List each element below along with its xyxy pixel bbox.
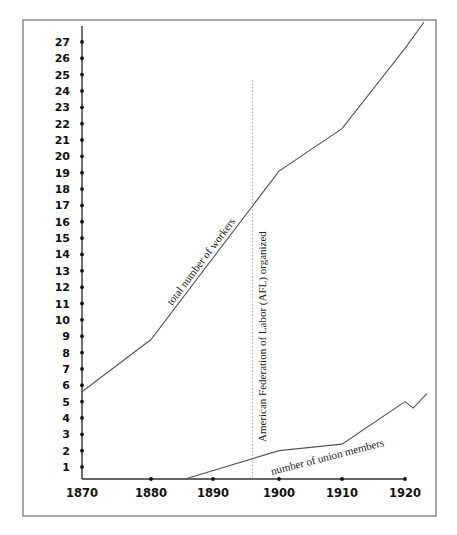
y-tick-dot (80, 171, 84, 175)
x-tick-dot (403, 477, 407, 481)
y-tick-dot (80, 154, 84, 158)
y-tick-dot (80, 56, 84, 60)
label-union-members: number of union members (269, 436, 385, 477)
y-tick-dot (80, 351, 84, 355)
y-tick-label: 27 (55, 36, 70, 49)
y-tick-dot (80, 89, 84, 93)
y-tick-label: 2 (62, 445, 70, 458)
x-tick-label: 1910 (326, 486, 358, 500)
y-tick-label: 10 (55, 314, 71, 327)
y-tick-label: 12 (55, 281, 70, 294)
y-tick-label: 17 (55, 199, 70, 212)
label-afl: American Federation of Labor (AFL) organ… (256, 231, 269, 442)
y-tick-label: 26 (55, 52, 71, 65)
x-tick-dot (149, 477, 153, 481)
y-tick-dot (80, 400, 84, 404)
y-tick-label: 16 (55, 216, 71, 229)
y-tick-label: 4 (62, 412, 70, 425)
y-tick-dot (80, 187, 84, 191)
chart: 1234567891011121314151617181920212223242… (0, 0, 457, 535)
x-tick-label: 1880 (135, 486, 167, 500)
y-tick-label: 20 (55, 150, 71, 163)
x-tick-dot (277, 477, 281, 481)
label-total-workers: total number of workers (164, 215, 237, 307)
y-tick-dot (80, 122, 84, 126)
y-tick-label: 7 (62, 363, 70, 376)
y-tick-dot (80, 253, 84, 257)
y-tick-label: 11 (55, 298, 70, 311)
y-tick-dot (80, 302, 84, 306)
y-tick-label: 23 (55, 101, 70, 114)
x-tick-dot (340, 477, 344, 481)
y-tick-label: 9 (62, 330, 70, 343)
y-tick-dot (80, 73, 84, 77)
y-axis-ticks: 1234567891011121314151617181920212223242… (55, 36, 84, 474)
y-tick-label: 1 (62, 461, 70, 474)
y-tick-label: 19 (55, 167, 70, 180)
y-tick-label: 22 (55, 118, 70, 131)
y-tick-label: 21 (55, 134, 70, 147)
x-tick-dot (211, 477, 215, 481)
y-tick-label: 14 (55, 248, 71, 261)
y-tick-dot (80, 285, 84, 289)
y-tick-dot (80, 236, 84, 240)
y-tick-label: 3 (62, 428, 70, 441)
y-tick-dot (80, 367, 84, 371)
y-tick-label: 24 (55, 85, 71, 98)
y-tick-dot (80, 318, 84, 322)
y-tick-label: 8 (62, 347, 70, 360)
x-tick-label: 1890 (197, 486, 229, 500)
y-tick-dot (80, 383, 84, 387)
x-tick-label: 1870 (66, 486, 98, 500)
y-tick-dot (80, 432, 84, 436)
y-tick-dot (80, 105, 84, 109)
y-tick-dot (80, 334, 84, 338)
y-tick-dot (80, 220, 84, 224)
axes (82, 26, 405, 479)
x-tick-label: 1900 (263, 486, 295, 500)
y-tick-label: 5 (62, 396, 70, 409)
x-axis-ticks: 187018801890190019101920 (66, 477, 421, 500)
y-tick-dot (80, 465, 84, 469)
y-tick-dot (80, 269, 84, 273)
y-tick-label: 13 (55, 265, 70, 278)
y-tick-dot (80, 449, 84, 453)
y-tick-label: 25 (55, 69, 70, 82)
y-tick-label: 15 (55, 232, 70, 245)
y-tick-dot (80, 40, 84, 44)
y-tick-dot (80, 416, 84, 420)
y-tick-label: 18 (55, 183, 70, 196)
y-tick-dot (80, 204, 84, 208)
y-tick-label: 6 (62, 379, 70, 392)
x-tick-label: 1920 (389, 486, 421, 500)
y-tick-dot (80, 138, 84, 142)
